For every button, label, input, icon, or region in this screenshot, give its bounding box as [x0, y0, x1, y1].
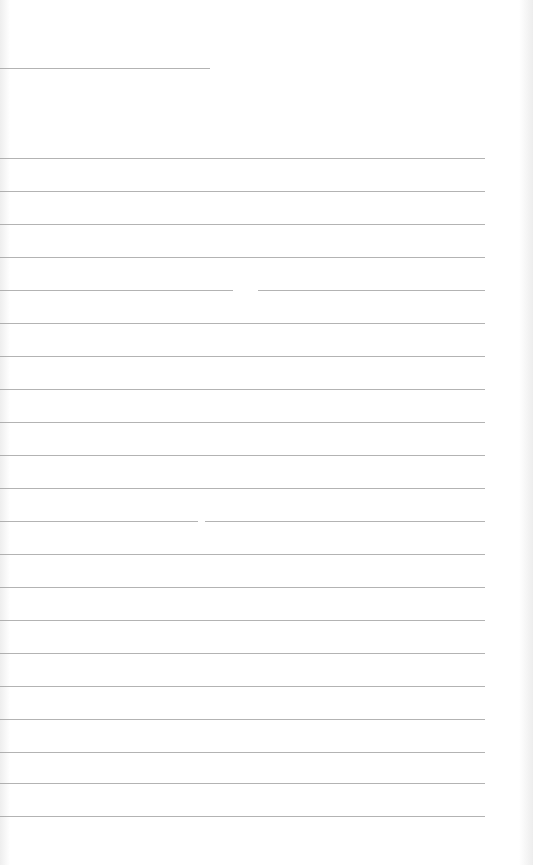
ruled-line [0, 554, 485, 555]
ruled-line [0, 191, 485, 192]
ruled-line [0, 521, 198, 522]
ruled-line [0, 686, 485, 687]
page-left-edge-shadow [0, 0, 10, 865]
ruled-line [0, 224, 485, 225]
lined-paper-page [0, 0, 533, 865]
ruled-line [0, 488, 485, 489]
ruled-line [0, 455, 485, 456]
ruled-line [0, 783, 485, 784]
ruled-line [0, 158, 485, 159]
ruled-line [0, 323, 485, 324]
bleed-through-text-bottom [10, 857, 523, 865]
ruled-line [0, 422, 485, 423]
bleed-through-text-top [10, 0, 523, 8]
ruled-line [0, 290, 233, 291]
header-rule-line [0, 68, 210, 69]
ruled-line [0, 816, 485, 817]
ruled-line [0, 752, 485, 753]
ruled-line [258, 290, 485, 291]
ruled-line [0, 620, 485, 621]
ruled-line [0, 356, 485, 357]
ruled-line [0, 653, 485, 654]
ruled-line [0, 719, 485, 720]
ruled-line [0, 257, 485, 258]
ruled-line [0, 587, 485, 588]
ruled-line [205, 521, 485, 522]
ruled-line [0, 389, 485, 390]
page-right-edge-shadow [519, 0, 533, 865]
